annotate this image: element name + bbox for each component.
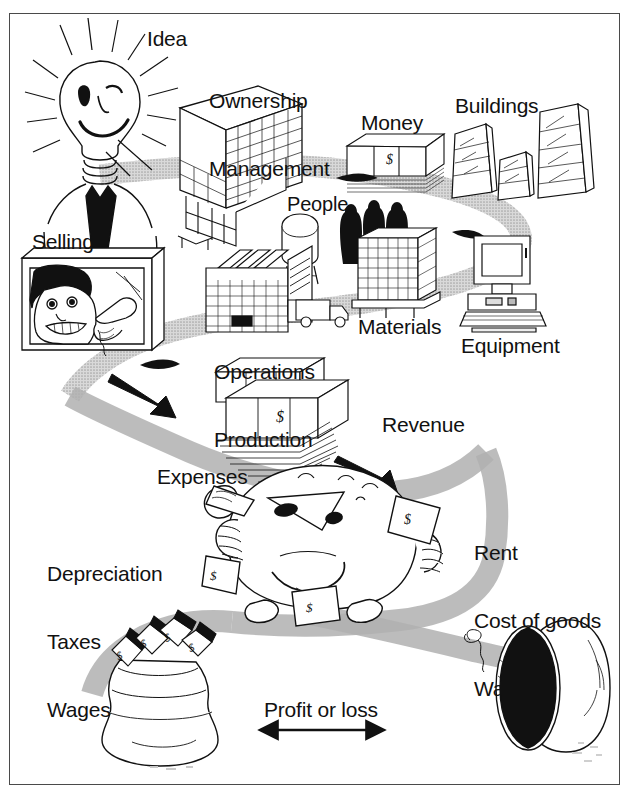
tv-salesperson-icon: [22, 248, 164, 356]
label-expense-items-right: Rent Cost of goods Waste: [474, 497, 601, 746]
label-expenses: Expenses: [157, 466, 248, 489]
label-selling: Selling: [32, 231, 94, 254]
diagram-canvas: $: [0, 0, 631, 790]
label-revenue: Revenue: [382, 414, 465, 437]
label-people: People: [287, 194, 348, 216]
svg-text:$: $: [404, 512, 411, 527]
label-ownership: Ownership: [209, 90, 330, 113]
label-materials: Materials: [358, 316, 441, 339]
label-idea: Idea: [147, 28, 187, 51]
buildings-icon: [452, 104, 594, 200]
label-management: Management: [209, 158, 330, 181]
label-operations: Operations: [214, 361, 315, 384]
svg-text:$: $: [306, 600, 313, 615]
label-depreciation: Depreciation: [47, 563, 163, 586]
svg-text:$: $: [386, 152, 393, 167]
label-equipment: Equipment: [461, 335, 560, 358]
label-buildings: Buildings: [455, 95, 538, 118]
label-expense-items-left: Depreciation Taxes Wages: [47, 518, 163, 767]
label-money: Money: [361, 112, 423, 135]
label-profit-or-loss: Profit or loss: [264, 699, 378, 722]
label-rent: Rent: [474, 542, 601, 565]
label-waste: Waste: [474, 678, 601, 701]
label-wages: Wages: [47, 699, 163, 722]
label-cost-of-goods: Cost of goods: [474, 610, 601, 633]
label-production: Production: [214, 429, 315, 452]
label-taxes: Taxes: [47, 631, 163, 654]
materials-pallet-icon: [352, 228, 440, 318]
svg-text:$: $: [210, 568, 217, 583]
